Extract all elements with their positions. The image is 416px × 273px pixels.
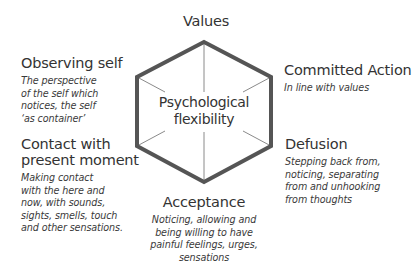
center-label: Psychological flexibility xyxy=(144,94,264,128)
acceptance-description: Noticing, allowing and being willing to … xyxy=(133,214,275,264)
desc-line: and other sensations. xyxy=(21,222,139,235)
defusion-node: Defusion Stepping back from, noticing, s… xyxy=(285,136,380,206)
spoke-contact xyxy=(137,131,165,146)
defusion-title: Defusion xyxy=(285,136,380,152)
contact-description: Making contact with the here and now, wi… xyxy=(21,172,139,235)
acceptance-title: Acceptance xyxy=(133,194,275,210)
title-line: present moment xyxy=(21,152,139,168)
desc-line: Making contact xyxy=(21,172,139,185)
observing-self-node: Observing self The perspective of the se… xyxy=(21,55,122,125)
values-title: Values xyxy=(183,13,229,29)
title-line: Contact with xyxy=(21,136,139,152)
committed-action-title: Committed Action xyxy=(284,62,412,78)
acceptance-node: Acceptance Noticing, allowing and being … xyxy=(133,194,275,264)
spoke-defusion xyxy=(243,131,271,146)
contact-title: Contact with present moment xyxy=(21,136,139,168)
committed-action-description: In line with values xyxy=(284,82,412,95)
center-line-2: flexibility xyxy=(144,111,264,128)
desc-line: with the here and xyxy=(21,185,139,198)
desc-line: The perspective xyxy=(21,75,122,88)
desc-line: sensations xyxy=(133,252,275,265)
center-line-1: Psychological xyxy=(144,94,264,111)
desc-line: Stepping back from, xyxy=(285,156,380,169)
desc-line: from thoughts xyxy=(285,194,380,207)
spoke-committed-action xyxy=(243,77,271,92)
observing-self-title: Observing self xyxy=(21,55,122,71)
desc-line: ‘as container’ xyxy=(21,113,122,126)
defusion-description: Stepping back from, noticing, separating… xyxy=(285,156,380,206)
desc-line: sights, smells, touch xyxy=(21,210,139,223)
desc-line: notices, the self xyxy=(21,100,122,113)
desc-line: from and unhooking xyxy=(285,181,380,194)
contact-present-moment-node: Contact with present moment Making conta… xyxy=(21,136,139,235)
desc-line: In line with values xyxy=(284,82,412,95)
desc-line: painful feelings, urges, xyxy=(133,239,275,252)
desc-line: being willing to have xyxy=(133,227,275,240)
committed-action-node: Committed Action In line with values xyxy=(284,62,412,95)
spoke-observing-self xyxy=(137,77,165,92)
desc-line: now, with sounds, xyxy=(21,197,139,210)
desc-line: noticing, separating xyxy=(285,169,380,182)
desc-line: of the self which xyxy=(21,88,122,101)
desc-line: Noticing, allowing and xyxy=(133,214,275,227)
observing-self-description: The perspective of the self which notice… xyxy=(21,75,122,125)
